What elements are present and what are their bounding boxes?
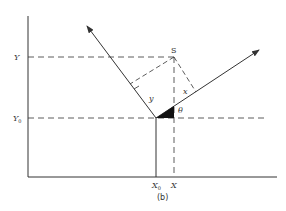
coordinate-rotation-diagram: Y Y0 X0 X S x y θ (b) — [0, 0, 286, 211]
tick-mark-rotated-y — [134, 86, 139, 89]
label-segment-y: y — [148, 94, 154, 103]
label-point-s: S — [171, 46, 176, 55]
label-segment-x: x — [183, 87, 188, 96]
label-x-axis-right: X — [170, 181, 177, 190]
label-y-axis-upper: Y — [14, 53, 20, 62]
label-y-axis-lower: Y0 — [13, 114, 21, 124]
label-x-axis-left: X0 — [151, 181, 161, 191]
label-angle-theta: θ — [178, 106, 183, 115]
rotated-y-axis-arrow — [87, 26, 156, 118]
figure-caption: (b) — [157, 193, 168, 202]
projection-s-to-rotated-y — [130, 57, 174, 84]
